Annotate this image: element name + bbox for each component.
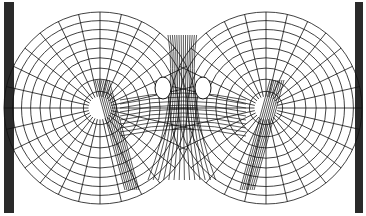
mesh-circle-0 (4, 12, 196, 204)
hole-1 (195, 77, 211, 99)
hole-0 (155, 77, 171, 99)
mesh-diagram (0, 0, 366, 216)
